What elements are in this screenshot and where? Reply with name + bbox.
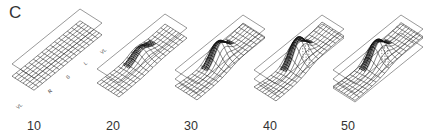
reference-plane	[175, 15, 265, 84]
step-label-30: 30	[184, 119, 198, 133]
step-label-50: 50	[341, 119, 355, 133]
reference-plane	[254, 15, 344, 84]
mesh-panel-20	[97, 14, 187, 97]
mesh-panel-40	[254, 15, 344, 101]
mesh-surface-figure	[0, 0, 432, 138]
mesh-panel-30	[175, 15, 265, 100]
step-label-40: 40	[263, 119, 277, 133]
reference-plane	[175, 24, 265, 93]
mesh-panel-10	[12, 9, 102, 90]
reference-plane	[254, 24, 344, 93]
step-label-10: 10	[27, 119, 41, 133]
step-label-20: 20	[106, 119, 120, 133]
mesh-panel-50	[333, 15, 423, 102]
reference-plane	[333, 15, 423, 84]
